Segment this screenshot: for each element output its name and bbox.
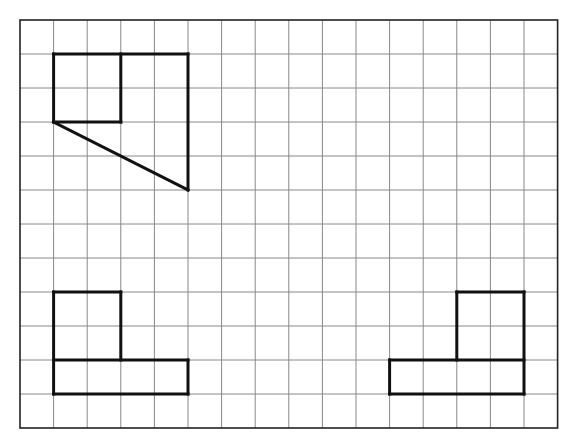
grid-lines [20,20,558,428]
grid-diagram [0,0,576,447]
